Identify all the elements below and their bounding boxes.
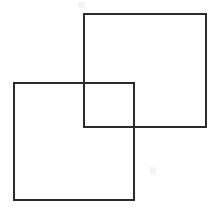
faint-smudge-top-left-artifact — [78, 2, 85, 8]
overlapping-squares-drawing — [0, 0, 218, 213]
faint-smudge-lower-right-artifact — [150, 167, 156, 175]
canvas-background — [0, 0, 218, 213]
figure-canvas — [0, 0, 218, 213]
